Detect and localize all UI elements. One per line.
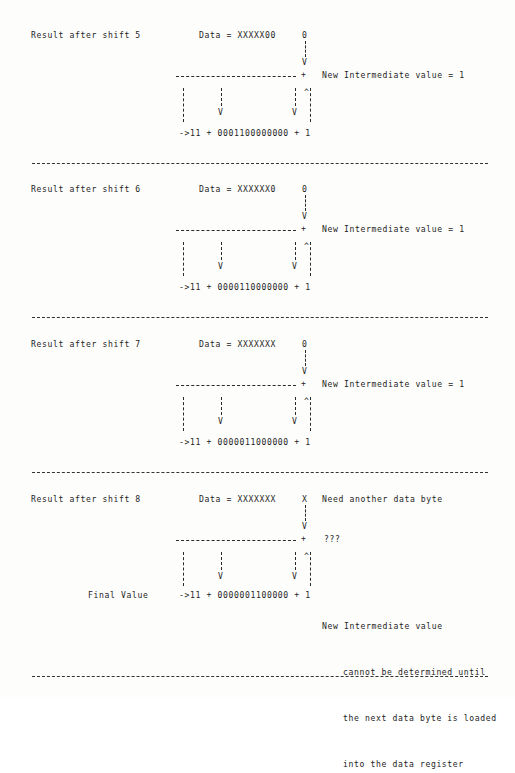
data-register-value: XXXXXXX (237, 339, 275, 349)
crc-feedback-line (183, 88, 184, 122)
incoming-bit: X (302, 494, 308, 505)
final-annotation-line: New Intermediate value (322, 619, 497, 634)
result-note: ??? (324, 534, 340, 545)
arrow-down-icon: V (292, 262, 297, 271)
arrow-down-icon: V (292, 108, 297, 117)
data-register-field: Data = XXXXXXX (199, 494, 276, 505)
data-register-value: XXXXX00 (237, 30, 275, 40)
result-feedback-line (310, 88, 311, 122)
data-register-prefix: Data = (199, 30, 237, 40)
block-separator (32, 676, 488, 677)
data-register-prefix: Data = (199, 184, 237, 194)
incoming-bit-connector (305, 41, 306, 57)
incoming-bit: 0 (302, 30, 308, 41)
arrow-down-icon: V (218, 417, 223, 426)
arrow-up-icon: ^ (304, 397, 309, 406)
block-title: Result after shift 6 (31, 184, 141, 195)
carry-connector-line (295, 88, 296, 106)
poly-connector-line (221, 242, 222, 260)
data-register-prefix: Data = (199, 494, 237, 504)
data-register-field: Data = XXXXXX0 (199, 184, 276, 195)
incoming-bit-connector (305, 350, 306, 366)
poly-connector-line (221, 552, 222, 570)
data-register-prefix: Data = (199, 339, 237, 349)
crc-feedback-line (183, 552, 184, 586)
sum-row: ->11 + 0000011000000 + 1 (179, 437, 311, 448)
sum-row: ->11 + 0001100000000 + 1 (179, 128, 311, 139)
final-value-label: Final Value (88, 590, 148, 601)
incoming-bit-note: Need another data byte (322, 494, 443, 505)
arrow-down-icon: V (218, 262, 223, 271)
data-register-field: Data = XXXXXXX (199, 339, 276, 350)
xor-rule (176, 385, 296, 386)
arrow-down-icon: V (292, 417, 297, 426)
result-feedback-line (310, 242, 311, 276)
block-title: Result after shift 8 (31, 494, 141, 505)
arrow-down-icon: V (218, 572, 223, 581)
arrow-up-icon: ^ (304, 552, 309, 561)
block-title: Result after shift 7 (31, 339, 141, 350)
crc-feedback-line (183, 397, 184, 431)
incoming-bit-connector (305, 195, 306, 211)
arrow-down-icon: V (302, 58, 307, 67)
result-note: New Intermediate value = 1 (322, 224, 465, 235)
xor-rule (176, 230, 296, 231)
arrow-down-icon: V (302, 522, 307, 531)
carry-connector-line (295, 397, 296, 415)
result-note: New Intermediate value = 1 (322, 70, 465, 81)
sum-row: ->11 + 0000001100000 + 1 (179, 590, 311, 601)
sum-row: ->11 + 0000110000000 + 1 (179, 282, 311, 293)
data-register-value: XXXXXXX (237, 494, 275, 504)
arrow-down-icon: V (292, 572, 297, 581)
block-title: Result after shift 5 (31, 30, 141, 41)
final-annotation-line: the next data byte is loaded (322, 711, 497, 726)
final-annotation-line: into the data register (322, 757, 497, 772)
arrow-down-icon: V (218, 108, 223, 117)
incoming-bit-connector (305, 505, 306, 521)
final-annotation: New Intermediate value cannot be determi… (322, 588, 497, 773)
xor-plus-sign: + (301, 70, 307, 81)
carry-connector-line (295, 552, 296, 570)
arrow-down-icon: V (302, 212, 307, 221)
poly-connector-line (221, 397, 222, 415)
xor-plus-sign: + (301, 379, 307, 390)
block-separator (32, 472, 488, 473)
incoming-bit: 0 (302, 339, 308, 350)
xor-plus-sign: + (301, 224, 307, 235)
xor-rule (176, 540, 296, 541)
block-separator (32, 163, 488, 164)
result-feedback-line (310, 397, 311, 431)
xor-plus-sign: + (301, 534, 307, 545)
data-register-field: Data = XXXXX00 (199, 30, 276, 41)
incoming-bit: 0 (302, 184, 308, 195)
result-note: New Intermediate value = 1 (322, 379, 465, 390)
poly-connector-line (221, 88, 222, 106)
crc-feedback-line (183, 242, 184, 276)
final-annotation-line: cannot be determined until (322, 665, 497, 680)
data-register-value: XXXXXX0 (237, 184, 275, 194)
xor-rule (176, 76, 296, 77)
carry-connector-line (295, 242, 296, 260)
result-feedback-line (310, 552, 311, 586)
arrow-up-icon: ^ (304, 242, 309, 251)
block-separator (32, 317, 488, 318)
arrow-down-icon: V (302, 367, 307, 376)
arrow-up-icon: ^ (304, 88, 309, 97)
